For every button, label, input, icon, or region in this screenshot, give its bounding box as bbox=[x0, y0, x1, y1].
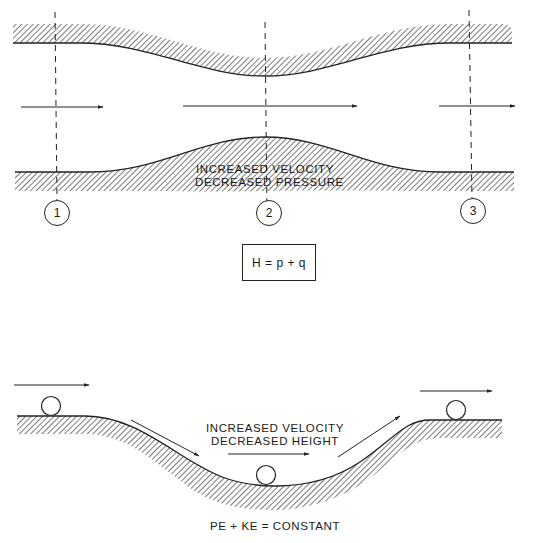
venturi-annotation-line2: DECREASED PRESSURE bbox=[195, 176, 335, 189]
track-annotation-line2: DECREASED HEIGHT bbox=[205, 435, 345, 448]
venturi-upper-wall bbox=[13, 24, 512, 76]
bernoulli-equation-box: H = p + q bbox=[242, 244, 316, 281]
venturi-annotation: INCREASED VELOCITY DECREASED PRESSURE bbox=[195, 163, 335, 189]
bernoulli-equation: H = p + q bbox=[252, 256, 306, 270]
ball-bottom bbox=[257, 466, 276, 485]
venturi-annotation-line1: INCREASED VELOCITY bbox=[195, 163, 335, 176]
track-annotation-line1: INCREASED VELOCITY bbox=[205, 422, 345, 435]
ball-right bbox=[447, 401, 466, 420]
station-2-label: 2 bbox=[256, 200, 282, 226]
track-annotation: INCREASED VELOCITY DECREASED HEIGHT bbox=[205, 422, 345, 448]
ball-left bbox=[42, 397, 61, 416]
energy-equation: PE + KE = CONSTANT bbox=[205, 520, 345, 533]
station-3-label: 3 bbox=[460, 198, 486, 224]
station-1-label: 1 bbox=[44, 200, 70, 226]
